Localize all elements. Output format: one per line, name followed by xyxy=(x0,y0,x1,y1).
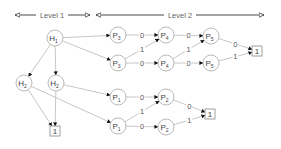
edge-P4b-P5b: 0 xyxy=(174,59,203,68)
edge-P3a-P4a: 0 xyxy=(126,31,158,40)
level-indicators: Level 1Level 2 xyxy=(15,11,264,20)
terminal-value: 1 xyxy=(53,127,58,136)
edge-H1-H2R xyxy=(55,46,56,75)
edge-H2R-P1a xyxy=(64,85,110,95)
edge-label: 0 xyxy=(140,59,144,68)
edge-H1-P3b xyxy=(62,41,110,60)
node-P3b: P3 xyxy=(110,55,126,71)
node-P2b: P2 xyxy=(158,119,174,135)
edge-P2a-T3: 0 xyxy=(173,100,205,112)
level-2-indicator: Level 2 xyxy=(96,11,264,20)
edge-label: 1 xyxy=(233,52,237,61)
edge-H2R-T1 xyxy=(55,91,56,126)
node-P1a: P1 xyxy=(110,89,126,105)
edge-label: 1 xyxy=(186,45,190,54)
edge-P2b-T3: 1 xyxy=(174,115,205,124)
edge-P1a-P2a: 0 xyxy=(126,93,158,102)
decision-diagram: Level 1Level 2 0100100101001 H1H2H21P3P3… xyxy=(0,0,281,149)
edge-arrow xyxy=(28,90,51,126)
edge-label: 1 xyxy=(140,45,144,54)
node-T1: 1 xyxy=(50,126,60,136)
edge-P4a-P5a: 0 xyxy=(174,31,203,40)
node-P5b: P5 xyxy=(203,55,219,71)
edge-label: 0 xyxy=(233,40,237,49)
edge-H2L-P1b xyxy=(31,86,110,122)
node-P3a: P3 xyxy=(110,27,126,43)
edge-H2L-T1 xyxy=(28,90,51,126)
nodes: H1H2H21P3P3P4P4P5P51P1P1P2P21 xyxy=(16,27,262,136)
edge-label: 1 xyxy=(140,107,144,116)
terminal-value: 1 xyxy=(208,110,213,119)
edge-P1b-P2a: 1 xyxy=(125,101,159,122)
edge-P3b-P4b: 0 xyxy=(126,59,158,68)
edge-H1-H2L xyxy=(29,45,51,77)
edge-label: 0 xyxy=(186,31,190,40)
edge-P1b-P2b: 0 xyxy=(126,122,158,131)
edge-arrow xyxy=(63,35,110,37)
node-T2: 1 xyxy=(252,46,262,56)
node-T3: 1 xyxy=(205,109,215,119)
edge-P4b-P5a: 1 xyxy=(173,40,204,59)
edge-P3b-P4a: 1 xyxy=(125,39,159,59)
terminal-value: 1 xyxy=(255,47,260,56)
edge-H1-P3a xyxy=(63,35,110,37)
node-P4a: P4 xyxy=(158,27,174,43)
node-H2R: H2 xyxy=(48,75,64,91)
edge-arrow xyxy=(31,86,110,122)
edge-label: 1 xyxy=(187,116,191,125)
edge-label: 0 xyxy=(140,31,144,40)
level-1-indicator: Level 1 xyxy=(15,11,90,20)
node-H1: H1 xyxy=(47,30,63,46)
edge-arrow xyxy=(55,91,56,126)
edge-arrow xyxy=(29,45,51,77)
edge-arrow xyxy=(55,46,56,75)
edge-arrow xyxy=(64,85,110,95)
node-P2a: P2 xyxy=(158,89,174,105)
edge-label: 0 xyxy=(140,93,144,102)
edge-label: 0 xyxy=(140,122,144,131)
edge-P5a-T2: 0 xyxy=(219,38,252,49)
edge-arrow xyxy=(62,41,110,60)
node-P5a: P5 xyxy=(203,28,219,44)
level-label: Level 1 xyxy=(40,11,64,20)
node-H2L: H2 xyxy=(16,75,32,91)
node-P4b: P4 xyxy=(158,55,174,71)
edge-label: 0 xyxy=(187,102,191,111)
level-label: Level 2 xyxy=(168,11,192,20)
edge-label: 0 xyxy=(186,59,190,68)
edge-P5b-T2: 1 xyxy=(219,52,252,61)
node-P1b: P1 xyxy=(110,118,126,134)
